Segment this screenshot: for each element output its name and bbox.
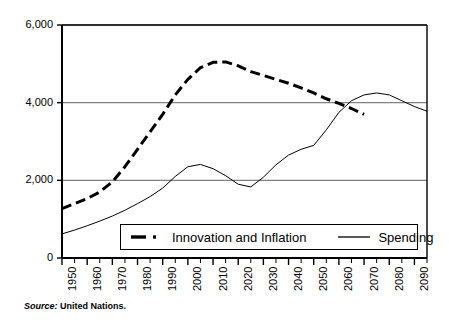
x-tick-label: 2050 [318, 267, 329, 291]
y-tick-label: 6,000 [25, 19, 53, 30]
source-value: United Nations. [58, 301, 127, 311]
x-tick-label: 2080 [394, 267, 405, 291]
legend-swatch-dashed [130, 231, 166, 243]
x-tick-label: 1960 [92, 267, 103, 291]
chart-figure: 6,0004,0002,0000 19501960197019801990200… [0, 0, 449, 325]
series-innovation-and-inflation [62, 62, 364, 209]
y-tick-label: 4,000 [25, 97, 53, 108]
chart-gridlines [62, 25, 427, 180]
y-tick-label: 2,000 [25, 174, 53, 185]
x-tick-label: 1980 [142, 267, 153, 291]
legend-item-innovation-and-inflation: Innovation and Inflation [130, 231, 306, 244]
source-note: Source: United Nations. [24, 301, 126, 311]
x-tick-label: 2070 [369, 267, 380, 291]
x-tick-label: 1950 [67, 267, 78, 291]
x-tick-label: 2040 [293, 267, 304, 291]
series-spending [62, 93, 427, 234]
y-tick-label: 0 [47, 252, 53, 263]
x-tick-label: 2020 [243, 267, 254, 291]
legend-item-spending: Spending [336, 231, 433, 244]
legend-label-innovation-and-inflation: Innovation and Inflation [172, 231, 306, 244]
x-tick-label: 2000 [192, 267, 203, 291]
legend-swatch-solid [336, 231, 372, 243]
x-tick-label: 2060 [343, 267, 354, 291]
chart-legend: Innovation and Inflation Spending [120, 224, 418, 250]
x-tick-label: 2090 [419, 267, 430, 291]
x-tick-label: 1990 [167, 267, 178, 291]
x-tick-label: 1970 [117, 267, 128, 291]
legend-label-spending: Spending [378, 231, 433, 244]
x-tick-label: 2030 [268, 267, 279, 291]
source-label: Source: [24, 301, 58, 311]
x-tick-label: 2010 [218, 267, 229, 291]
